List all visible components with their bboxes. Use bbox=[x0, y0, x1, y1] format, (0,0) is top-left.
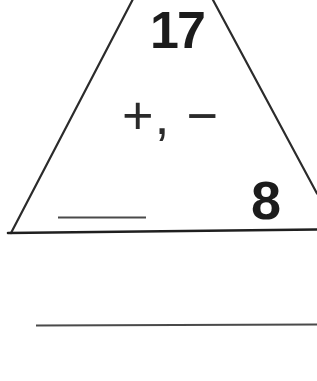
answer-line bbox=[36, 325, 317, 326]
triangle-base-side bbox=[8, 230, 317, 234]
triangle-right-side bbox=[213, 0, 317, 194]
triangle-right-number: 8 bbox=[251, 173, 281, 227]
triangle-left-side bbox=[11, 0, 133, 233]
operations-symbols: +, − bbox=[122, 88, 219, 142]
triangle-top-number: 17 bbox=[150, 4, 204, 56]
worksheet-page: 17 +, − 8 bbox=[0, 0, 317, 381]
